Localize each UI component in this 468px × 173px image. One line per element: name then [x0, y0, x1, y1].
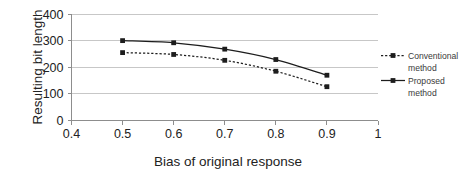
- data-point-marker: [222, 58, 227, 63]
- legend-label-conventional-line2: method: [408, 63, 437, 73]
- y-tick-label: 100: [43, 87, 64, 101]
- y-axis-title: Resulting bit length: [30, 10, 45, 125]
- data-point-marker: [325, 84, 330, 89]
- chart-container: 0100200300400 0.40.50.60.70.80.91 Result…: [0, 0, 468, 173]
- x-tick-label: 0.9: [318, 127, 335, 141]
- data-point-marker: [325, 73, 330, 78]
- data-point-marker: [120, 38, 125, 43]
- data-point-marker: [171, 40, 176, 45]
- y-tick-label: 200: [43, 61, 64, 75]
- x-tick-label: 0.4: [63, 127, 80, 141]
- data-point-marker: [222, 47, 227, 52]
- legend-label-conventional-line1: Conventional: [408, 51, 458, 61]
- y-tick-label: 400: [43, 8, 64, 22]
- line-chart: 0100200300400 0.40.50.60.70.80.91 Result…: [0, 0, 468, 173]
- x-tick-label: 0.6: [165, 127, 182, 141]
- x-tick-label: 0.8: [267, 127, 284, 141]
- x-axis-title: Bias of original response: [154, 154, 302, 169]
- legend-marker-square-icon: [391, 78, 396, 83]
- data-point-marker: [273, 69, 278, 74]
- x-tick-label: 0.7: [216, 127, 233, 141]
- legend-label-proposed-line1: Proposed: [408, 76, 445, 86]
- chart-background: [0, 0, 468, 173]
- x-tick-label: 0.5: [114, 127, 131, 141]
- legend-marker-square-icon: [391, 53, 396, 58]
- data-point-marker: [120, 50, 125, 55]
- data-point-marker: [273, 57, 278, 62]
- data-point-marker: [171, 52, 176, 57]
- legend-label-proposed-line2: method: [408, 88, 437, 98]
- y-tick-label: 300: [43, 34, 64, 48]
- x-tick-label: 1: [375, 127, 382, 141]
